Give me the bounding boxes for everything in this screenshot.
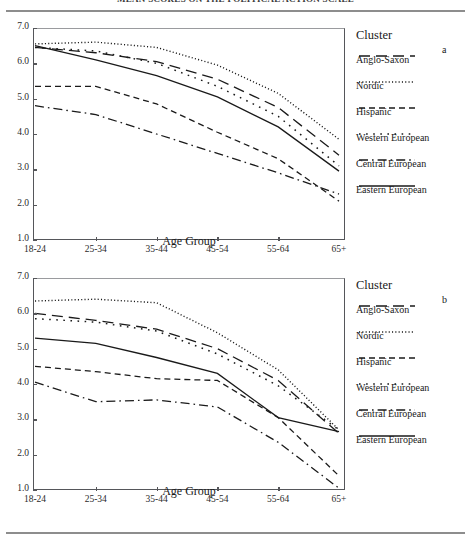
legend-label: Western European bbox=[356, 132, 429, 143]
bottom-rule bbox=[6, 532, 465, 534]
y-tick-mark bbox=[33, 278, 37, 279]
chart-panel-a: 7.06.05.04.03.02.01.0 18-2425-3435-4445-… bbox=[0, 12, 471, 257]
series-line-central-european bbox=[35, 106, 339, 194]
y-tick-mark bbox=[33, 134, 37, 135]
legend-item-central-european[interactable]: Central European bbox=[356, 398, 468, 424]
y-tick-label: 4.0 bbox=[3, 377, 29, 387]
series-line-nordic bbox=[35, 299, 339, 430]
series-line-central-european bbox=[35, 382, 339, 488]
chart-panel-b: 7.06.05.04.03.02.01.0 18-2425-3435-4445-… bbox=[0, 262, 471, 524]
y-tick-mark bbox=[33, 419, 37, 420]
y-tick-mark bbox=[33, 384, 37, 385]
figure-title: MEAN SCORES ON THE POLITICAL ACTION SCAL… bbox=[0, 0, 471, 4]
y-tick-label: 6.0 bbox=[3, 56, 29, 66]
x-axis-title-b: Age Group bbox=[33, 484, 345, 499]
y-tick-mark bbox=[33, 63, 37, 64]
legend-label: Nordic bbox=[356, 80, 384, 91]
y-tick-mark bbox=[33, 313, 37, 314]
y-tick-label: 5.0 bbox=[3, 342, 29, 352]
legend-swatch bbox=[358, 176, 416, 184]
legend-swatch bbox=[358, 98, 416, 106]
legend-label: Anglo-Saxon bbox=[356, 304, 409, 315]
legend-label: Central European bbox=[356, 408, 426, 419]
x-axis-title-a: Age Group bbox=[33, 234, 345, 249]
figure-page: MEAN SCORES ON THE POLITICAL ACTION SCAL… bbox=[0, 0, 471, 538]
legend-swatch bbox=[358, 124, 416, 132]
legend-swatch bbox=[358, 72, 416, 80]
y-tick-mark bbox=[33, 99, 37, 100]
legend-label: Eastern European bbox=[356, 434, 427, 445]
y-tick-mark bbox=[33, 169, 37, 170]
legend-item-hispanic[interactable]: Hispanic bbox=[356, 96, 468, 122]
legend-item-anglo-saxon[interactable]: Anglo-Saxon bbox=[356, 294, 468, 320]
legend-a: ClusteraAnglo-SaxonNordicHispanicWestern… bbox=[356, 28, 468, 200]
legend-label: Nordic bbox=[356, 330, 384, 341]
legend-item-western-european[interactable]: Western European bbox=[356, 122, 468, 148]
y-tick-label: 7.0 bbox=[3, 271, 29, 281]
y-tick-label: 7.0 bbox=[3, 21, 29, 31]
y-tick-mark bbox=[33, 455, 37, 456]
legend-swatch bbox=[358, 296, 416, 304]
legend-title: Cluster bbox=[356, 278, 468, 294]
y-tick-label: 3.0 bbox=[3, 162, 29, 172]
legend-item-anglo-saxon[interactable]: Anglo-Saxon bbox=[356, 44, 468, 70]
legend-item-central-european[interactable]: Central European bbox=[356, 148, 468, 174]
y-tick-label: 1.0 bbox=[3, 233, 29, 243]
y-tick-label: 4.0 bbox=[3, 127, 29, 137]
series-line-western-european bbox=[35, 47, 339, 165]
legend-swatch bbox=[358, 150, 416, 158]
legend-swatch bbox=[358, 322, 416, 330]
series-line-western-european bbox=[35, 319, 339, 430]
legend-label: Hispanic bbox=[356, 356, 392, 367]
legend-swatch bbox=[358, 374, 416, 382]
legend-title: Cluster bbox=[356, 28, 468, 44]
legend-item-eastern-european[interactable]: Eastern European bbox=[356, 424, 468, 450]
y-tick-mark bbox=[33, 28, 37, 29]
legend-item-western-european[interactable]: Western European bbox=[356, 372, 468, 398]
y-tick-label: 1.0 bbox=[3, 483, 29, 493]
series-line-eastern-european bbox=[35, 338, 339, 432]
y-tick-mark bbox=[33, 349, 37, 350]
legend-swatch bbox=[358, 400, 416, 408]
series-line-anglo-saxon bbox=[35, 313, 339, 433]
series-line-anglo-saxon bbox=[35, 47, 339, 155]
legend-item-hispanic[interactable]: Hispanic bbox=[356, 346, 468, 372]
legend-b: ClusterbAnglo-SaxonNordicHispanicWestern… bbox=[356, 278, 468, 450]
y-tick-label: 2.0 bbox=[3, 448, 29, 458]
legend-label: Hispanic bbox=[356, 106, 392, 117]
legend-label: Central European bbox=[356, 158, 426, 169]
legend-item-eastern-european[interactable]: Eastern European bbox=[356, 174, 468, 200]
y-tick-label: 5.0 bbox=[3, 92, 29, 102]
y-tick-label: 2.0 bbox=[3, 198, 29, 208]
legend-item-nordic[interactable]: Nordic bbox=[356, 320, 468, 346]
y-tick-label: 6.0 bbox=[3, 306, 29, 316]
series-line-eastern-european bbox=[35, 46, 339, 171]
legend-label: Eastern European bbox=[356, 184, 427, 195]
legend-item-nordic[interactable]: Nordic bbox=[356, 70, 468, 96]
legend-label: Western European bbox=[356, 382, 429, 393]
y-tick-mark bbox=[33, 205, 37, 206]
legend-swatch bbox=[358, 426, 416, 434]
legend-swatch bbox=[358, 46, 416, 54]
y-tick-label: 3.0 bbox=[3, 412, 29, 422]
legend-label: Anglo-Saxon bbox=[356, 54, 409, 65]
legend-swatch bbox=[358, 348, 416, 356]
